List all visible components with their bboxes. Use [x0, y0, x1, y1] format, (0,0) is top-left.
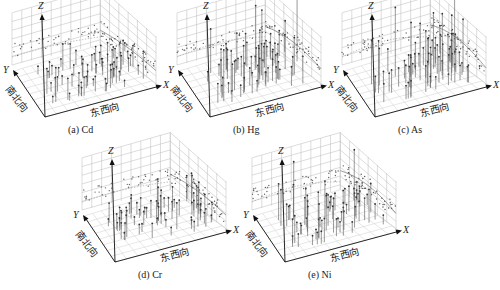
data-point — [163, 197, 165, 199]
projected-point — [349, 177, 350, 178]
projected-point — [203, 193, 204, 194]
projected-point — [147, 60, 148, 61]
y-arrow-icon — [13, 70, 19, 76]
projected-point — [19, 44, 20, 45]
data-point — [412, 63, 414, 65]
projected-point — [265, 21, 266, 22]
data-point — [225, 43, 227, 45]
projected-point — [96, 28, 97, 29]
projected-point — [427, 25, 428, 26]
projected-point — [361, 182, 362, 183]
y-arrow-icon — [83, 215, 89, 221]
projected-point — [223, 45, 224, 46]
projected-point — [185, 45, 186, 46]
projected-point — [234, 32, 235, 33]
projected-point — [104, 23, 105, 24]
projected-point — [253, 188, 254, 189]
projected-point — [144, 52, 145, 53]
data-point — [368, 188, 370, 190]
projected-point — [382, 43, 383, 44]
data-point — [370, 183, 372, 185]
data-point — [170, 227, 172, 229]
projected-point — [177, 50, 178, 51]
data-point — [49, 61, 51, 63]
projected-point — [479, 66, 480, 67]
data-point — [99, 51, 101, 53]
projected-point — [388, 207, 389, 208]
projected-point — [174, 178, 175, 179]
data-point — [405, 85, 407, 87]
projected-point — [481, 65, 482, 66]
projected-point — [292, 186, 293, 187]
projected-point — [308, 177, 309, 178]
projected-point — [178, 44, 179, 45]
data-point — [262, 59, 264, 61]
projected-point — [364, 46, 365, 47]
projected-point — [196, 41, 197, 42]
projected-point — [253, 30, 254, 31]
projected-point — [397, 30, 398, 31]
projected-point — [99, 185, 100, 186]
projected-point — [123, 179, 124, 180]
projected-point — [370, 47, 371, 48]
projected-point — [354, 184, 355, 185]
projected-point — [145, 68, 146, 69]
projected-point — [131, 49, 132, 50]
projected-point — [142, 53, 143, 54]
data-point — [294, 215, 296, 217]
projected-point — [216, 202, 217, 203]
projected-point — [145, 176, 146, 177]
data-point — [358, 200, 360, 202]
projected-point — [381, 44, 382, 45]
projected-point — [285, 181, 286, 182]
projected-point — [362, 185, 363, 186]
data-point — [319, 217, 321, 219]
projected-point — [242, 31, 243, 32]
projected-point — [468, 42, 469, 43]
data-point — [264, 71, 266, 73]
projected-point — [264, 194, 265, 195]
data-point — [297, 233, 299, 235]
data-point — [210, 214, 212, 216]
projected-point — [347, 44, 348, 45]
projected-point — [261, 26, 262, 27]
projected-point — [55, 37, 56, 38]
projected-point — [228, 41, 229, 42]
projected-point — [70, 43, 71, 44]
projected-point — [362, 43, 363, 44]
data-point — [173, 199, 175, 201]
data-point — [157, 186, 159, 188]
data-point — [317, 191, 319, 193]
y-axis-label: Y — [3, 64, 9, 75]
panel-caption: (b) Hg — [233, 124, 259, 135]
projected-point — [253, 189, 254, 190]
data-point — [57, 76, 59, 78]
projected-point — [84, 196, 85, 197]
data-point — [467, 66, 469, 68]
data-point — [67, 77, 69, 79]
data-point — [336, 218, 338, 220]
data-point — [134, 216, 136, 218]
projected-point — [468, 48, 469, 49]
projected-point — [393, 31, 394, 32]
projected-point — [348, 47, 349, 48]
data-point — [394, 7, 396, 9]
data-point — [191, 172, 193, 174]
data-point — [278, 183, 280, 185]
data-point — [221, 84, 223, 86]
projected-point — [266, 197, 267, 198]
data-point — [346, 204, 348, 206]
data-point — [261, 9, 263, 11]
projected-point — [347, 169, 348, 170]
projected-point — [171, 183, 172, 184]
projected-point — [134, 46, 135, 47]
projected-point — [345, 179, 346, 180]
projected-point — [186, 177, 187, 178]
projected-point — [301, 42, 302, 43]
data-point — [266, 46, 268, 48]
x-axis-label: X — [233, 224, 239, 235]
panel-caption: (e) Ni — [308, 269, 332, 280]
data-point — [51, 65, 53, 67]
data-point — [387, 48, 389, 50]
data-point — [37, 65, 39, 67]
